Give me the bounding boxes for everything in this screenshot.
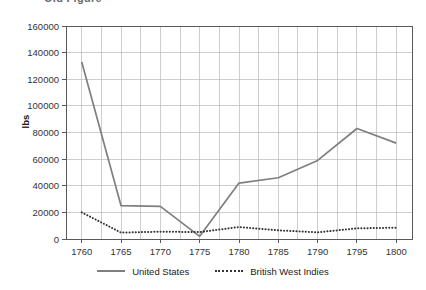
dotted-line-swatch-icon: [215, 270, 243, 272]
y-tick-labels: 0200004000060000800001000001200001400001…: [27, 21, 59, 245]
y-tick-label: 60000: [33, 154, 59, 165]
y-tick-label: 120000: [27, 74, 59, 85]
y-tick-label: 160000: [27, 21, 59, 32]
x-tick-label: 1765: [110, 246, 131, 257]
y-tick-label: 140000: [27, 47, 59, 58]
legend-item-british-west-indies[interactable]: British West Indies: [215, 266, 329, 277]
x-tick-label: 1790: [307, 246, 328, 257]
tickmarks: [62, 26, 396, 243]
legend-item-united-states[interactable]: United States: [97, 266, 189, 277]
y-tick-label: 100000: [27, 100, 59, 111]
x-tick-label: 1795: [346, 246, 367, 257]
gridlines: [66, 26, 412, 239]
chart-legend: United States British West Indies: [0, 262, 426, 280]
y-tick-label: 20000: [33, 207, 59, 218]
x-tick-labels: 176017651770177517801785179017951800: [71, 246, 407, 257]
x-tick-label: 1770: [150, 246, 171, 257]
x-tick-label: 1760: [71, 246, 92, 257]
plot-area: 0200004000060000800001000001200001400001…: [0, 0, 426, 290]
x-tick-label: 1785: [268, 246, 289, 257]
solid-line-swatch-icon: [97, 270, 125, 272]
legend-label-british-west-indies: British West Indies: [250, 266, 329, 277]
y-tick-label: 0: [54, 234, 59, 245]
y-tick-label: 40000: [33, 180, 59, 191]
x-tick-label: 1800: [386, 246, 407, 257]
y-tick-label: 80000: [33, 127, 59, 138]
x-tick-label: 1775: [189, 246, 210, 257]
x-tick-label: 1780: [228, 246, 249, 257]
chart-figure: Old Figure lbs 0200004000060000800001000…: [0, 0, 426, 290]
legend-label-united-states: United States: [132, 266, 189, 277]
